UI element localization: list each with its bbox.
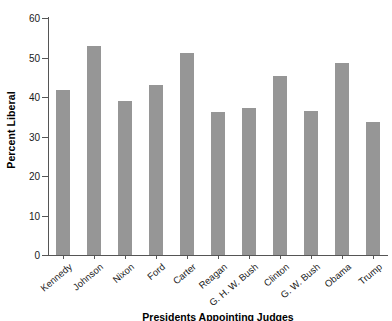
x-axis-labels: KennedyJohnsonNixonFordCarterReaganG. H.… (48, 256, 388, 308)
y-axis-title-label: Percent Liberal (5, 91, 17, 168)
x-tick-label-text: Ford (145, 261, 167, 282)
x-tick-mark (218, 256, 219, 259)
y-tick-label: 10 (2, 210, 40, 221)
x-tick-label-text: Kennedy (39, 261, 75, 294)
y-tick-label: 60 (2, 13, 40, 24)
bar[interactable] (149, 85, 163, 255)
bar-slot (79, 18, 110, 255)
y-tick-label: 0 (2, 250, 40, 261)
y-tick-label: 30 (2, 131, 40, 142)
x-tick-mark (373, 256, 374, 259)
y-tick-label: 40 (2, 92, 40, 103)
bar-slot (264, 18, 295, 255)
bar[interactable] (366, 122, 380, 255)
bar-slot (295, 18, 326, 255)
bar[interactable] (304, 111, 318, 255)
bar-slot (48, 18, 79, 255)
y-tick-label: 20 (2, 171, 40, 182)
x-tick-mark (94, 256, 95, 259)
bar[interactable] (87, 46, 101, 255)
bar[interactable] (180, 53, 194, 255)
x-tick-mark (342, 256, 343, 259)
bars-layer (48, 18, 388, 255)
bar-chart-figure: Percent Liberal 0102030405060 KennedyJoh… (0, 0, 392, 321)
bar-slot (357, 18, 388, 255)
x-tick-mark (187, 256, 188, 259)
x-tick-mark (63, 256, 64, 259)
bar[interactable] (273, 76, 287, 255)
bar-slot (172, 18, 203, 255)
x-tick-mark (156, 256, 157, 259)
x-tick-mark (311, 256, 312, 259)
x-tick-label-text: Carter (171, 261, 198, 286)
x-tick-label-text: Nixon (111, 261, 137, 285)
bar[interactable] (118, 101, 132, 255)
x-axis-title: Presidents Appointing Judges (48, 312, 388, 321)
x-tick-mark (280, 256, 281, 259)
x-tick-mark (125, 256, 126, 259)
bar-slot (110, 18, 141, 255)
x-tick-mark (249, 256, 250, 259)
y-axis-title: Percent Liberal (0, 0, 22, 260)
bar-slot (141, 18, 172, 255)
bar[interactable] (242, 108, 256, 255)
bar-slot (233, 18, 264, 255)
y-tick-label: 50 (2, 52, 40, 63)
bar[interactable] (56, 90, 70, 256)
bar[interactable] (335, 63, 349, 255)
bar-slot (203, 18, 234, 255)
x-tick-label-text: Trump (356, 261, 384, 287)
bar-slot (326, 18, 357, 255)
bar[interactable] (211, 112, 225, 255)
